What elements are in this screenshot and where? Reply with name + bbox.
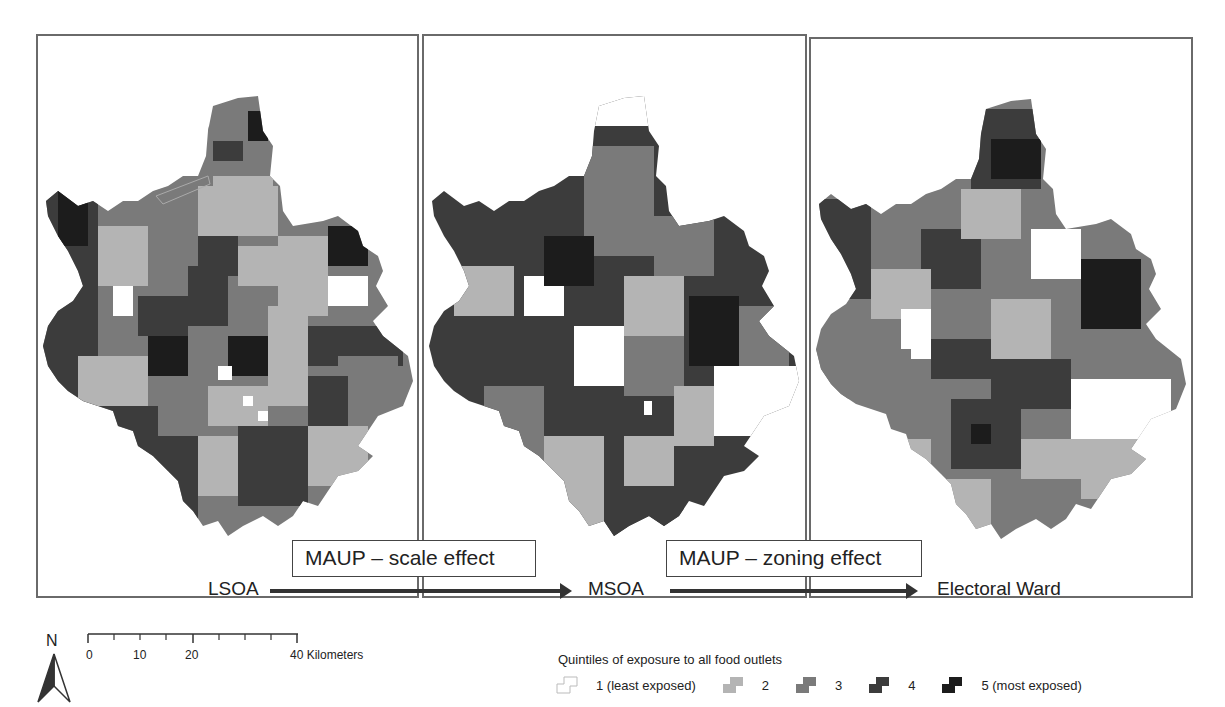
- zoning-arrow: [670, 589, 908, 593]
- map-panel-ward: [809, 37, 1193, 598]
- north-arrow-icon: [34, 650, 74, 707]
- legend-swatch-1: [556, 676, 578, 694]
- choropleth-map-ward: [811, 39, 1192, 596]
- scale-effect-label: MAUP – scale effect: [305, 546, 494, 569]
- legend-swatch-3: [795, 676, 817, 694]
- legend: 1 (least exposed) 2 3 4 5 (most exposed): [556, 676, 1108, 694]
- legend-label-4: 4: [908, 678, 915, 693]
- choropleth-map-lsoa: [38, 36, 418, 596]
- map-panel-msoa: [422, 34, 807, 598]
- legend-swatch-2: [722, 676, 744, 694]
- scale-tick-10: 10: [133, 648, 146, 662]
- legend-label-1: 1 (least exposed): [596, 678, 696, 693]
- lsoa-label: LSOA: [208, 578, 259, 600]
- legend-label-3: 3: [835, 678, 842, 693]
- electoral-ward-label: Electoral Ward: [937, 578, 1061, 600]
- choropleth-map-msoa: [424, 36, 806, 596]
- zoning-effect-box: MAUP – zoning effect: [666, 540, 922, 577]
- legend-label-2: 2: [762, 678, 769, 693]
- legend-label-5: 5 (most exposed): [981, 678, 1081, 693]
- legend-swatch-5: [941, 676, 963, 694]
- msoa-label: MSOA: [588, 578, 644, 600]
- scale-arrow: [270, 589, 562, 593]
- scale-tick-40: 40 Kilometers: [290, 648, 363, 662]
- legend-swatch-4: [868, 676, 890, 694]
- scale-bar-ruler: [86, 630, 306, 644]
- legend-title: Quintiles of exposure to all food outlet…: [558, 652, 782, 667]
- scale-tick-20: 20: [185, 648, 198, 662]
- map-panel-lsoa: [36, 34, 419, 598]
- zoning-effect-label: MAUP – zoning effect: [679, 546, 881, 569]
- scale-effect-box: MAUP – scale effect: [292, 540, 536, 577]
- north-label: N: [46, 632, 58, 650]
- scale-bar: 0 10 20 40 Kilometers: [86, 630, 306, 648]
- scale-tick-0: 0: [86, 648, 93, 662]
